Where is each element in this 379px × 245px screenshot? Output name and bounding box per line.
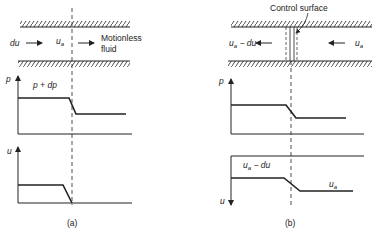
control-surface bbox=[286, 27, 297, 61]
panel-b: Control surface ua − du ua p bbox=[218, 3, 372, 228]
p-axis-label-b: p bbox=[218, 76, 224, 86]
flow-ua-minus-du-label: ua − du bbox=[229, 38, 256, 49]
panel-a: du ua Motionless fluid p p + dp u (a) bbox=[5, 8, 142, 228]
ua-minus-du-label-b: ua − du bbox=[243, 160, 270, 171]
flow-du-label: du bbox=[10, 38, 20, 48]
velocity-plot-b: u ua − du ua bbox=[220, 156, 364, 206]
ua-label-b: ua bbox=[329, 179, 338, 190]
channel-bottom-wall-b bbox=[228, 61, 372, 67]
diagram-canvas: du ua Motionless fluid p p + dp u (a) Co… bbox=[0, 0, 379, 245]
motionless-label-2: fluid bbox=[101, 44, 117, 54]
u-axis-label: u bbox=[7, 146, 12, 156]
flow-ua-label-b: ua bbox=[355, 38, 364, 49]
u-axis-label-b: u bbox=[220, 196, 225, 206]
p-axis-label: p bbox=[5, 74, 11, 84]
flow-ua-label: ua bbox=[56, 36, 65, 47]
caption-b: (b) bbox=[285, 218, 296, 228]
motionless-label-1: Motionless bbox=[101, 33, 142, 43]
channel-bottom-wall bbox=[18, 61, 130, 67]
caption-a: (a) bbox=[67, 218, 78, 228]
control-surface-label: Control surface bbox=[270, 3, 328, 13]
velocity-plot-a: u bbox=[7, 146, 132, 203]
channel-top-wall bbox=[20, 21, 130, 27]
pressure-plot-a: p p + dp bbox=[5, 74, 132, 134]
p-plus-dp-label: p + dp bbox=[32, 80, 57, 90]
channel-top-wall-b bbox=[231, 21, 372, 27]
